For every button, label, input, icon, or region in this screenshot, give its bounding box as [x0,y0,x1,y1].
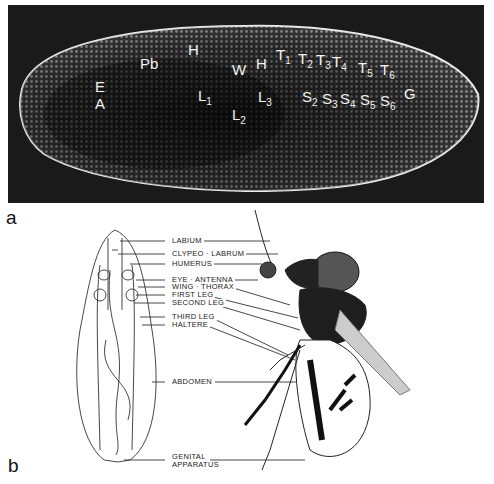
embryo-segment-label: T3 [316,51,331,71]
embryo-segment-label: W [232,61,246,78]
embryo-segment-label: H [188,41,199,58]
panel-b-letter: b [8,455,19,477]
embryo-segment-label: S5 [360,91,376,111]
embryo-image [14,14,484,192]
callout-labium: LABIUM [170,237,204,245]
embryo-segment-label: S2 [302,88,318,108]
embryo-segment-label: T6 [380,61,395,81]
embryo-segment-label: T4 [332,53,347,73]
embryo-segment-label: T1 [276,46,291,66]
embryo-segment-label: E [95,78,105,95]
embryo-segment-label: S4 [340,90,356,110]
embryo-segment-label: Pb [140,55,158,72]
embryo-photo-panel: EAPbHWHT1T2T3T4T5T6GL1L2L3S2S3S4S5S6 [8,5,484,203]
embryo-segment-label: G [404,85,416,102]
embryo-segment-label: L2 [232,106,246,126]
embryo-segment-label: T2 [298,50,313,70]
callout-clypeo-labrum: CLYPEO · LABRUM [170,250,246,258]
embryo-segment-label: S6 [380,92,396,112]
embryo-segment-label: S3 [322,90,338,110]
callout-apparatus: APPARATUS [170,461,221,469]
embryo-segment-label: H [256,55,267,72]
anatomy-diagram [0,210,494,484]
embryo-segment-label: A [95,95,105,112]
callout-abdomen: ABDOMEN [170,378,214,386]
embryo-segment-label: L1 [198,87,212,107]
fly-anatomy-panel: LABIUM CLYPEO · LABRUM HUMERUS EYE · ANT… [0,210,494,484]
adult-fly [245,210,410,470]
embryo-segment-label: T5 [358,59,373,79]
embryo-segment-label: L3 [258,88,272,108]
callout-second-leg: SECOND LEG [170,299,226,307]
callout-haltere: HALTERE [170,321,210,329]
callout-humerus: HUMERUS [170,260,214,268]
